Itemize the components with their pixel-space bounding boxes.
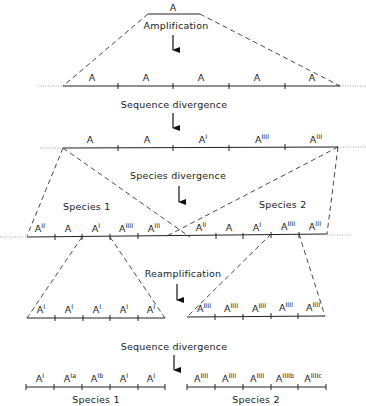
species-2-final-label: Species 2 [232,394,279,405]
gene-copy: A [309,72,316,83]
gene-copy: AIIII [194,372,208,384]
gene-copy: AIIII [252,302,266,314]
gene-copy: A [144,134,151,145]
gene-copy: AIIII [281,220,295,232]
step-final-sequence-divergence-label: Sequence divergence [121,341,228,352]
gene-copy: AIIIIc [304,372,322,384]
species2-reamplified-array: AIIII AIIII AIIII AIIII AIIII [187,301,325,320]
gene-copy: A [198,72,205,83]
gene-copy: AII [35,222,45,234]
gene-copy: AIIII [279,301,293,313]
gene-copy: AI [65,303,74,315]
gene-copy: AIIII [222,372,236,384]
step-reamplification-label: Reamplification [145,268,222,279]
species-1-final-label: Species 1 [72,394,119,405]
gene-copy: AIII [309,220,321,232]
gene-copy: AIIII [306,301,320,313]
gene-copy: AI [36,372,45,384]
species-arrays: AII A AI AIIII AIII AII A AI AIIII AIII [0,220,352,240]
gene-copy: AI [93,303,102,315]
step-sequence-divergence-label: Sequence divergence [121,99,228,110]
gene-copy: AIIII [224,302,238,314]
species1-reamplified-array: AI AI AI AI AI [27,303,165,321]
gene-copy: AI [199,133,208,145]
gene-copy: AI [120,303,129,315]
step-amplification-label: Amplification [144,20,209,31]
gene-copy: AI [120,372,129,384]
gene-copy: A [254,72,261,83]
species1-final-array: AI AIa AIb AI AI [26,372,165,390]
gene-copy: AIII [148,222,160,234]
gene-copy: AII [196,221,206,233]
gene-copy: AIIII [197,302,211,314]
gene-copy: AIa [64,372,76,384]
gene-copy: AI [92,222,101,234]
step-species-divergence-label: Species divergence [130,170,226,181]
gene-amplification-diagram: A Amplification A A A A A Sequence diver… [0,0,366,406]
gene-copy: A [87,134,94,145]
gene-copy: A [65,223,72,234]
gene-copy: AI [37,303,46,315]
gene-copy: A [226,222,233,233]
gene-copy: AIIIIb [276,372,294,384]
species2-final-array: AIIII AIIII AIIII AIIIIb AIIIIc [187,372,326,390]
gene-copy: AI [147,372,156,384]
gene-copy: AI [253,221,262,233]
gene-copy: AIb [91,372,104,384]
gene-copy: AIIII [119,222,133,234]
gene-copy: AIIII [250,372,264,384]
species-2-label: Species 2 [259,199,306,210]
diverged-array: A A AI AIIII AIII [40,133,366,151]
gene-copy: AIII [310,133,322,145]
gene-label: A [170,2,177,13]
gene-copy: AI [147,303,156,315]
gene-copy: AIIII [255,133,269,145]
gene-copy: A [89,72,96,83]
original-gene: A [148,2,200,14]
gene-copy: A [143,72,150,83]
species-1-label: Species 1 [63,201,110,212]
